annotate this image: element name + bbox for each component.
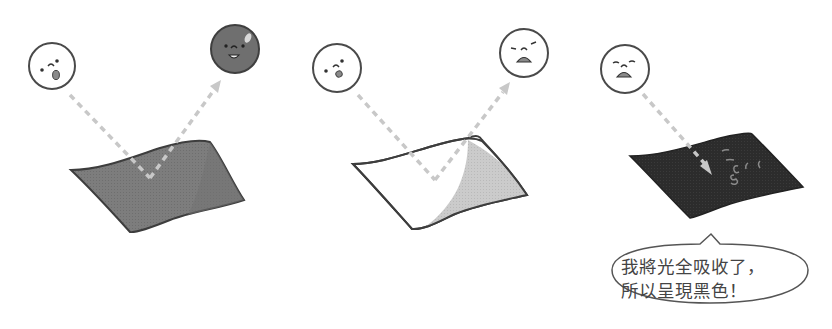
distressed-face-icon: [601, 45, 649, 93]
speech-bubble-text: 我將光全吸收了， 所以呈現黑色！: [621, 255, 791, 303]
panel-white-surface: [313, 29, 548, 229]
surprised-face-icon: [313, 44, 361, 92]
arrowhead-icon: [210, 80, 221, 93]
distressed-face-icon: [500, 29, 548, 77]
panel-gray-surface: [29, 25, 259, 232]
speech-bubble-line-2: 所以呈現黑色！: [621, 279, 791, 303]
happy-gray-ball-icon: [211, 25, 259, 73]
speech-bubble-line-1: 我將光全吸收了，: [621, 255, 791, 279]
surprised-face-icon: [29, 43, 75, 89]
black-sheet: [630, 133, 803, 218]
arrowhead-icon: [499, 82, 510, 95]
